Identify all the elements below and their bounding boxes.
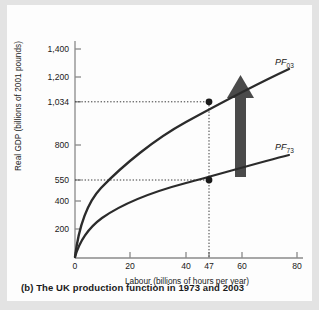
curve-label-pf03: PF03 xyxy=(275,57,294,69)
y-tick-label-550: 550 xyxy=(29,175,69,185)
curve-label-pf73-text: PF xyxy=(275,142,287,152)
y-axis-title: Real GDP (billions of 2001 pounds) xyxy=(13,21,23,191)
y-tick-label-1400: 1,400 xyxy=(29,44,69,54)
curve-label-pf03-sub: 03 xyxy=(287,62,294,69)
x-tick-label-0: 0 xyxy=(60,261,90,271)
y-tick-label-1034: 1,034 xyxy=(29,97,69,107)
x-tick-label-47: 47 xyxy=(194,261,224,271)
y-axis-ticks xyxy=(75,49,81,229)
point-pf73-47 xyxy=(206,177,213,184)
x-tick-label-60: 60 xyxy=(227,261,257,271)
figure-frame: 1,400 1,200 1,034 800 550 400 200 0 20 4… xyxy=(0,0,319,310)
x-axis-ticks xyxy=(75,252,297,258)
y-tick-label-1200: 1,200 xyxy=(29,72,69,82)
curve-pf73 xyxy=(75,155,289,257)
chart-plot-area: 1,400 1,200 1,034 800 550 400 200 0 20 4… xyxy=(7,5,312,270)
guide-lines xyxy=(75,102,209,258)
y-tick-label-800: 800 xyxy=(29,140,69,150)
curve-label-pf73: PF73 xyxy=(275,142,294,154)
figure-caption: (b) The UK production function in 1973 a… xyxy=(21,282,244,293)
curve-label-pf73-sub: 73 xyxy=(287,147,294,154)
figure-panel: 1,400 1,200 1,034 800 550 400 200 0 20 4… xyxy=(7,5,312,301)
point-pf03-47 xyxy=(206,98,213,105)
curve-label-pf03-text: PF xyxy=(275,57,287,67)
y-tick-label-400: 400 xyxy=(29,196,69,206)
x-tick-label-20: 20 xyxy=(115,261,145,271)
shift-up-arrow-icon xyxy=(227,75,254,177)
y-tick-label-200: 200 xyxy=(29,224,69,234)
x-tick-label-80: 80 xyxy=(282,261,312,271)
